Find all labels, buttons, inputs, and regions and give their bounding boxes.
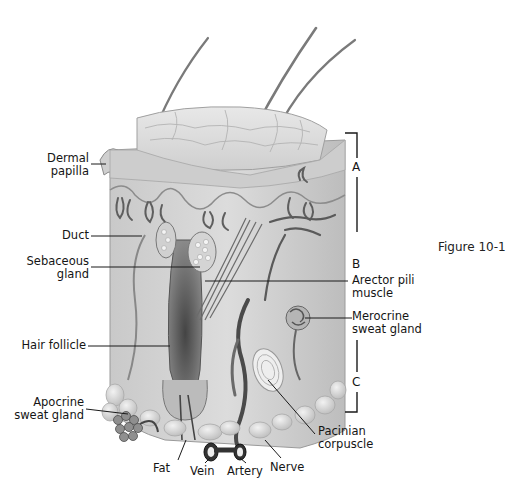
label-artery: Artery	[227, 465, 263, 478]
layer-label-b: B	[352, 257, 360, 271]
label-sebaceous-gland: Sebaceous gland	[27, 255, 89, 281]
label-nerve: Nerve	[270, 461, 304, 474]
label-fat: Fat	[153, 462, 170, 475]
label-hair-follicle: Hair follicle	[21, 339, 86, 352]
layer-label-c: C	[352, 375, 360, 389]
label-vein: Vein	[190, 465, 215, 478]
label-dermal-papilla: Dermal papilla	[47, 152, 89, 178]
label-apocrine-sweat-gland: Apocrine sweat gland	[14, 396, 84, 422]
label-merocrine-sweat-gland: Merocrine sweat gland	[352, 310, 422, 336]
skin-diagram-figure: A B C Figure 10-1 Dermal papilla Duct Se…	[0, 0, 519, 501]
label-arector-pili-muscle: Arector pili muscle	[352, 274, 415, 300]
figure-caption: Figure 10-1	[438, 240, 506, 254]
label-pacinian-corpuscle: Pacinian corpuscle	[318, 425, 373, 451]
vessel-ends	[204, 443, 246, 461]
label-duct: Duct	[62, 229, 89, 242]
layer-label-a: A	[352, 160, 360, 174]
